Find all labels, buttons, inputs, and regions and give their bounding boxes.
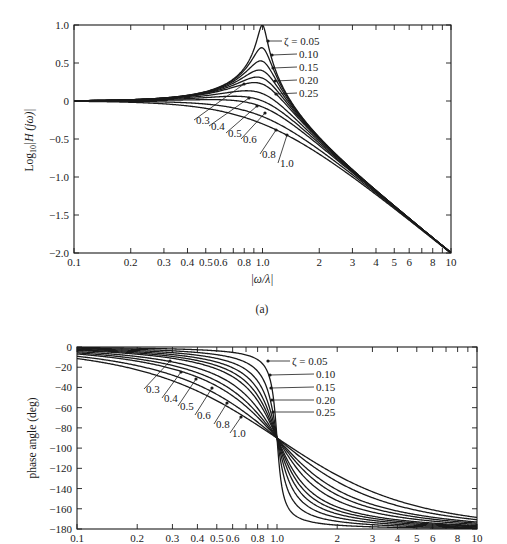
zeta-annotation: 0.10 <box>299 48 319 60</box>
magnitude-curves <box>74 25 451 253</box>
x-tick-label: 1.0 <box>270 532 284 544</box>
x-tick-label: 0.8 <box>237 256 251 268</box>
y-tick-label: −1.0 <box>49 171 69 183</box>
curve-zeta-0.6 <box>74 100 451 253</box>
zeta-annotation: 0.6 <box>243 133 257 145</box>
zeta-annotation: 0.8 <box>216 418 230 430</box>
x-tick-label: 0.2 <box>130 532 144 544</box>
y-tick-label: −1.5 <box>49 209 69 221</box>
x-tick-label: 6 <box>430 532 436 544</box>
x-tick-label: 4 <box>395 532 401 544</box>
curve-zeta-1.0 <box>77 359 477 518</box>
y-tick-label: 0 <box>67 341 73 353</box>
zeta-annotation: 0.5 <box>180 400 194 412</box>
zeta-annotation: 0.25 <box>316 406 336 418</box>
zeta-annotation: 0.3 <box>146 383 160 395</box>
zeta-annotation: 0.3 <box>196 114 210 126</box>
zeta-annotation: 0.5 <box>228 127 242 139</box>
curve-zeta-0.3 <box>74 83 451 253</box>
x-tick-label: 8 <box>430 256 436 268</box>
x-tick-label: 0.5 <box>210 532 224 544</box>
x-tick-label: 0.1 <box>70 532 84 544</box>
y-tick-label: −2.0 <box>49 247 69 259</box>
x-tick-label: 0.6 <box>214 256 228 268</box>
x-tick-label: 0.1 <box>67 256 81 268</box>
zeta-annotation: 1.0 <box>232 427 246 439</box>
x-tick-label: 0.3 <box>157 256 171 268</box>
x-tick-label: 0.8 <box>251 532 265 544</box>
zeta-annotation: 0.20 <box>299 74 319 86</box>
bode-figure: 0.10.20.30.40.50.60.81.0234568101.00.50−… <box>0 0 507 544</box>
y-tick-label: −20 <box>55 361 73 373</box>
y-tick-label: −40 <box>55 381 73 393</box>
x-tick-label: 2 <box>334 532 340 544</box>
y-tick-label: −140 <box>49 483 72 495</box>
x-tick-label: 10 <box>446 256 458 268</box>
zeta-annotation: 0.8 <box>262 148 276 160</box>
phase-plot: 0.10.20.30.40.50.60.81.0234568100−20−40−… <box>26 341 483 544</box>
zeta-annotation: 0.25 <box>299 87 319 99</box>
zeta-annotation: 0.10 <box>316 368 336 380</box>
zeta-annotation: 0.15 <box>299 61 319 73</box>
x-tick-label: 0.5 <box>199 256 213 268</box>
x-tick-label: 3 <box>370 532 376 544</box>
y-tick-label: −0.5 <box>49 133 69 145</box>
zeta-annotation: 0.4 <box>164 392 178 404</box>
x-tick-label: 10 <box>472 532 484 544</box>
curve-zeta-0.5 <box>74 96 451 253</box>
y-tick-label: −160 <box>49 503 72 515</box>
y-tick-label: 0 <box>64 95 70 107</box>
zeta-annotation: ζ = 0.05 <box>292 355 328 368</box>
zeta-annotation: 0.20 <box>316 394 336 406</box>
x-tick-label: 5 <box>392 256 398 268</box>
curve-zeta-0.20 <box>74 70 451 253</box>
phase-axis-ticks: 0.10.20.30.40.50.60.81.0234568100−20−40−… <box>49 341 483 544</box>
y-tick-label: −180 <box>49 523 72 535</box>
y-tick-label: −100 <box>49 442 72 454</box>
x-tick-label: 0.3 <box>166 532 180 544</box>
zeta-annotation: ζ = 0.05 <box>284 35 320 48</box>
x-tick-label: 5 <box>414 532 420 544</box>
curve-zeta-0.05 <box>74 25 451 253</box>
curve-zeta-1.0 <box>74 101 451 253</box>
x-tick-label: 3 <box>350 256 356 268</box>
zeta-annotation: 0.15 <box>316 381 336 393</box>
zeta-annotation: 1.0 <box>280 157 294 169</box>
phase-annotations: ζ = 0.050.100.150.200.250.30.40.50.60.81… <box>144 355 336 439</box>
magnitude-x-axis-label: |ω/λ| <box>251 273 274 286</box>
x-tick-label: 1.0 <box>256 256 270 268</box>
x-tick-label: 0.4 <box>191 532 205 544</box>
y-tick-label: 0.5 <box>55 57 69 69</box>
y-tick-label: −120 <box>49 462 72 474</box>
zeta-annotation: 0.6 <box>197 409 211 421</box>
x-tick-label: 0.2 <box>124 256 138 268</box>
x-tick-label: 8 <box>455 532 461 544</box>
zeta-annotation: 0.4 <box>211 120 225 132</box>
curve-zeta-0.4 <box>74 91 451 253</box>
magnitude-plot-frame <box>74 25 451 253</box>
x-tick-label: 4 <box>373 256 379 268</box>
panel-label-a: (a) <box>256 303 269 316</box>
x-tick-label: 6 <box>406 256 412 268</box>
magnitude-plot: 0.10.20.30.40.50.60.81.0234568101.00.50−… <box>23 19 457 316</box>
x-tick-label: 2 <box>316 256 322 268</box>
magnitude-annotations: ζ = 0.050.100.150.200.250.30.40.50.60.81… <box>194 35 320 169</box>
y-tick-label: −80 <box>55 422 73 434</box>
y-tick-label: −60 <box>55 402 73 414</box>
phase-y-axis-label: phase angle (deg) <box>26 397 39 478</box>
curve-zeta-0.25 <box>74 77 451 253</box>
x-tick-label: 0.4 <box>181 256 195 268</box>
x-tick-label: 0.6 <box>226 532 240 544</box>
y-tick-label: 1.0 <box>55 19 69 31</box>
magnitude-y-axis-label: Log10|H (jω)| <box>23 108 38 171</box>
